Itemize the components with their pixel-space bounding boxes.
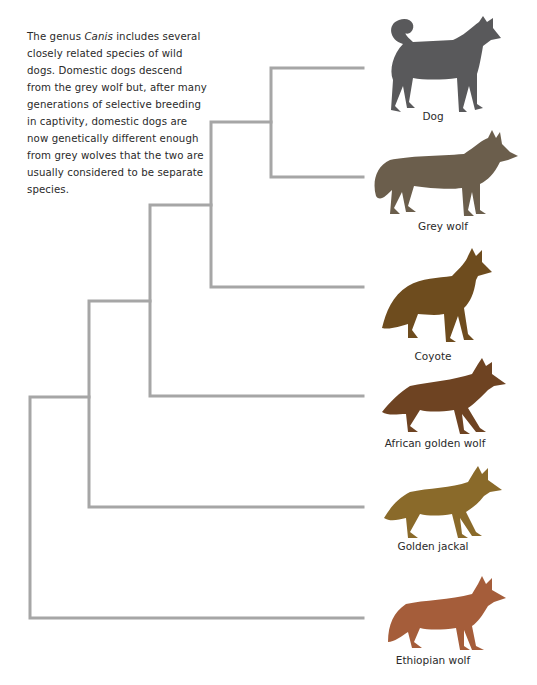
leaf-label-ethiopian-wolf: Ethiopian wolf: [383, 654, 483, 666]
leaf-label-grey-wolf: Grey wolf: [403, 220, 483, 232]
leaf-label-african-golden-wolf: African golden wolf: [380, 437, 490, 449]
coyote-silhouette-icon: [378, 246, 498, 346]
golden-jackal-silhouette-icon: [382, 462, 502, 542]
tree-branches: [30, 68, 363, 618]
ethiopian-wolf-silhouette-icon: [384, 572, 508, 654]
african-golden-wolf-silhouette-icon: [380, 356, 506, 436]
branch-golden-jackal: [89, 301, 363, 507]
branch-coyote: [211, 122, 363, 287]
dog-silhouette-icon: [383, 16, 503, 114]
leaf-label-golden-jackal: Golden jackal: [388, 540, 478, 552]
branch-dog-greywolf: [271, 68, 363, 177]
branch-african-golden-wolf: [150, 205, 363, 396]
leaf-label-dog: Dog: [403, 110, 463, 122]
grey-wolf-silhouette-icon: [368, 126, 518, 218]
